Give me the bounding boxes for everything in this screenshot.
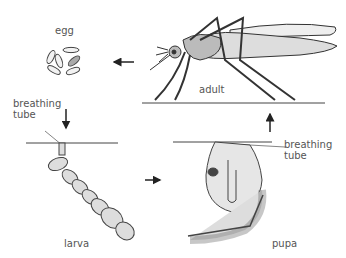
- adult-mosquito-icon: [142, 18, 337, 103]
- label-line-2: tube: [284, 150, 332, 161]
- label-egg: egg: [55, 25, 74, 36]
- label-line-1: breathing: [13, 98, 61, 109]
- label-pupa-breathing-tube: breathing tube: [284, 139, 332, 161]
- label-pupa: pupa: [272, 238, 297, 249]
- label-line-1: breathing: [284, 139, 332, 150]
- egg-cluster-icon: [45, 47, 81, 76]
- pupa-icon: [188, 142, 263, 240]
- label-line-2: tube: [13, 109, 61, 120]
- label-larva-breathing-tube: breathing tube: [13, 98, 61, 120]
- larva-icon: [47, 143, 138, 244]
- life-cycle-diagram: [0, 0, 346, 258]
- label-adult: adult: [199, 84, 225, 95]
- label-larva: larva: [64, 238, 89, 249]
